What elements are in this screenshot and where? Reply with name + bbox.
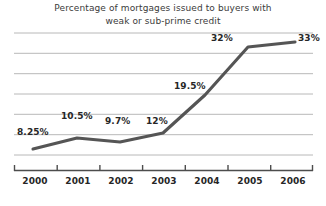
gridlines	[14, 33, 313, 155]
data-label-2002: 9.7%	[105, 116, 130, 126]
data-label-2000: 8.25%	[17, 127, 49, 137]
x-axis	[14, 165, 313, 171]
x-axis-label-2004: 2004	[187, 176, 227, 186]
data-label-2003: 12%	[146, 116, 168, 126]
chart-container: Percentage of mortgages issued to buyers…	[0, 0, 326, 206]
data-label-2004: 19.5%	[174, 81, 206, 91]
data-label-2001: 10.5%	[61, 111, 93, 121]
x-axis-label-2005: 2005	[230, 176, 270, 186]
data-label-2005: 32%	[211, 33, 233, 43]
x-axis-label-2003: 2003	[144, 176, 184, 186]
x-axis-label-2000: 2000	[15, 176, 55, 186]
data-series-line	[33, 42, 295, 149]
x-axis-label-2002: 2002	[101, 176, 141, 186]
x-axis-label-2006: 2006	[273, 176, 313, 186]
data-label-2006: 33%	[298, 33, 320, 43]
x-axis-label-2001: 2001	[58, 176, 98, 186]
